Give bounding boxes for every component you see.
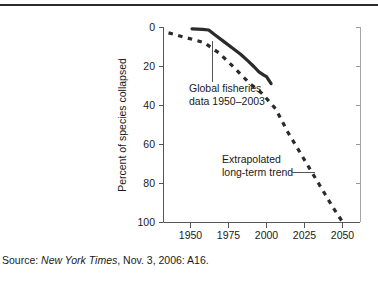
- annotation-extrapolated-line2: long-term trend: [222, 166, 293, 178]
- source-prefix: Source:: [2, 254, 38, 266]
- x-tick-label-2025: 2025: [293, 229, 317, 241]
- annotation-global-fisheries-line1: Global fisheries: [189, 82, 261, 94]
- y-tick-label-100: 100: [137, 216, 155, 228]
- x-tick-label-1950: 1950: [179, 229, 203, 241]
- y-tick-label-60: 60: [143, 138, 155, 150]
- right-axis-ticks: [356, 28, 361, 184]
- extrapolated-trend-line: [169, 33, 343, 222]
- y-axis-ticks: [159, 28, 164, 223]
- source-detail: , Nov. 3, 2006: A16.: [117, 254, 208, 266]
- annotation-global-fisheries-line2: data 1950–2003: [189, 95, 265, 107]
- y-tick-label-20: 20: [143, 60, 155, 72]
- annotation-extrapolated-line1: Extrapolated: [222, 153, 281, 165]
- x-tick-label-2050: 2050: [331, 229, 355, 241]
- y-tick-label-80: 80: [143, 177, 155, 189]
- x-tick-label-1975: 1975: [217, 229, 241, 241]
- chart-plot-area: 0 20 40 60 80 100 1950 1975 2000 2025 20…: [0, 0, 378, 245]
- source-caption: Source: New York Times, Nov. 3, 2006: A1…: [2, 254, 209, 266]
- x-tick-label-2000: 2000: [255, 229, 279, 241]
- y-axis-title: Percent of species collapsed: [116, 58, 128, 192]
- global-fisheries-data-line: [192, 29, 271, 84]
- y-tick-label-40: 40: [143, 99, 155, 111]
- figure-container: 0 20 40 60 80 100 1950 1975 2000 2025 20…: [0, 0, 378, 281]
- source-publication: New York Times: [41, 254, 117, 266]
- x-axis-ticks: [191, 223, 343, 229]
- y-tick-label-0: 0: [149, 21, 155, 33]
- line-chart: 0 20 40 60 80 100 1950 1975 2000 2025 20…: [0, 0, 378, 245]
